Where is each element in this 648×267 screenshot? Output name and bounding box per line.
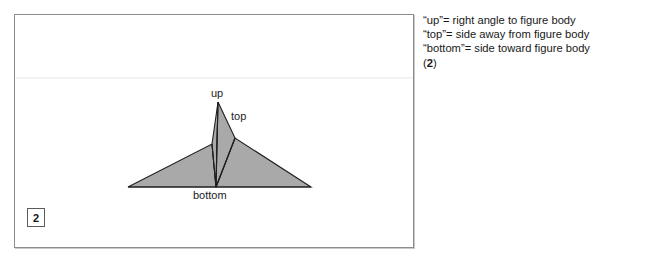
diagram-drawing [15, 15, 415, 249]
dart-shape-svg [15, 15, 415, 249]
caption-block: “up”= right angle to figure body “top”= … [423, 13, 641, 70]
label-top: top [231, 110, 246, 122]
caption-figure-number: (2) [423, 56, 641, 70]
caption-line-bottom: “bottom”= side toward figure body [423, 41, 641, 55]
left-wing-facet [128, 144, 216, 187]
caption-line-up: “up”= right angle to figure body [423, 13, 641, 27]
label-bottom: bottom [193, 189, 227, 201]
figure-number-badge: 2 [27, 208, 45, 227]
figure-panel: up top bottom 2 [14, 14, 414, 248]
label-up: up [211, 87, 223, 99]
caption-number-close-paren: ) [433, 57, 437, 69]
page-root: up top bottom 2 “up”= right angle to fig… [0, 0, 648, 267]
caption-line-top: “top”= side away from figure body [423, 27, 641, 41]
